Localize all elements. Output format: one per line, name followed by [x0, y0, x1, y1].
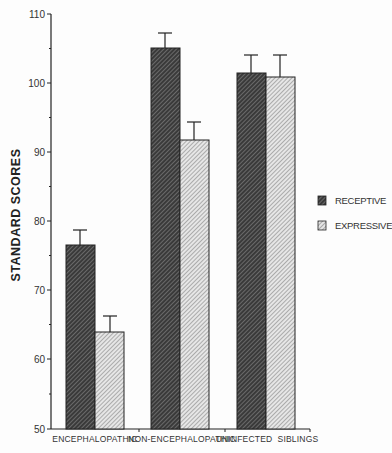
- bar-group-encephalopathic: [66, 230, 124, 429]
- y-tick-70: 70: [34, 285, 46, 296]
- y-tick-110: 110: [29, 9, 45, 20]
- bar-group-non-encephalopathic: [151, 33, 209, 429]
- bar-receptive: [66, 245, 95, 429]
- y-tick-60: 60: [34, 354, 46, 365]
- legend-item-expressive: EXPRESSIVE: [318, 220, 392, 231]
- legend: RECEPTIVE EXPRESSIVE: [318, 195, 392, 231]
- y-tick-80: 80: [34, 216, 46, 227]
- bar-expressive: [180, 140, 209, 429]
- y-tick-50: 50: [34, 424, 46, 435]
- bar-group-uninfected-siblings: [237, 55, 295, 429]
- bar-receptive: [151, 48, 180, 429]
- legend-swatch-dark-hatch: [318, 196, 326, 205]
- legend-swatch-light-hatch: [318, 221, 326, 230]
- y-axis: 110 100 90 80 70 60 50: [28, 9, 51, 435]
- y-tick-100: 100: [28, 78, 45, 89]
- y-axis-title: STANDARD SCORES: [9, 149, 23, 282]
- legend-item-receptive: RECEPTIVE: [318, 195, 386, 206]
- legend-label-expressive: EXPRESSIVE: [335, 220, 392, 231]
- bar-expressive: [266, 77, 295, 429]
- bar-chart: STANDARD SCORES 110 100 90 80 70 60 50 E…: [0, 0, 392, 453]
- bar-expressive: [95, 332, 124, 429]
- y-tick-90: 90: [34, 147, 46, 158]
- bar-receptive: [237, 73, 266, 429]
- category-label-encephalopathic: ENCEPHALOPATHIC: [52, 434, 137, 444]
- x-axis: ENCEPHALOPATHIC NON-ENCEPHALOPATHIC UNIN…: [51, 429, 318, 444]
- category-label-uninfected-siblings: UNINFECTED SIBLINGS: [216, 434, 319, 444]
- legend-label-receptive: RECEPTIVE: [335, 195, 386, 206]
